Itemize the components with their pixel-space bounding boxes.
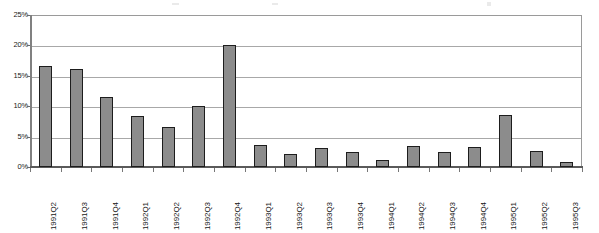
x-axis-tickmark bbox=[367, 168, 368, 172]
y-axis-tick-label: 15% bbox=[2, 72, 28, 80]
x-axis-tickmark bbox=[214, 168, 215, 172]
bar bbox=[376, 160, 389, 167]
x-axis-tickmark bbox=[429, 168, 430, 172]
x-axis-tick-label: 1992Q1 bbox=[141, 174, 151, 230]
x-axis-tickmark bbox=[398, 168, 399, 172]
y-axis-tick-label: 5% bbox=[2, 133, 28, 141]
bar bbox=[438, 152, 451, 167]
x-axis-tickmarks bbox=[30, 168, 582, 173]
x-axis-tick-label: 1993Q3 bbox=[325, 174, 335, 230]
x-axis-tickmark bbox=[521, 168, 522, 172]
x-axis-tick-label: 1994Q1 bbox=[387, 174, 397, 230]
bar bbox=[131, 116, 144, 167]
bar bbox=[100, 97, 113, 167]
x-axis-tick-label: 1992Q2 bbox=[172, 174, 182, 230]
x-axis-tick-label: 1994Q2 bbox=[417, 174, 427, 230]
bar bbox=[315, 148, 328, 167]
y-axis-labels: 0%5%10%15%20%25% bbox=[0, 0, 28, 233]
x-axis-tickmark bbox=[337, 168, 338, 172]
y-axis-tick-label: 10% bbox=[2, 102, 28, 110]
x-axis-tickmark bbox=[551, 168, 552, 172]
bar-chart: 0%5%10%15%20%25% 1991Q21991Q31991Q41992Q… bbox=[0, 0, 599, 233]
bar bbox=[192, 106, 205, 167]
y-axis-tick-label: 20% bbox=[2, 41, 28, 49]
x-axis-tick-label: 1993Q2 bbox=[295, 174, 305, 230]
bar bbox=[254, 145, 267, 167]
x-axis-tickmark bbox=[183, 168, 184, 172]
x-axis-tickmark bbox=[490, 168, 491, 172]
bar bbox=[284, 154, 297, 167]
scan-artifact bbox=[487, 2, 491, 6]
y-axis-tick-label: 25% bbox=[2, 11, 28, 19]
x-axis-tick-label: 1991Q4 bbox=[111, 174, 121, 230]
x-axis-tick-label: 1995Q3 bbox=[571, 174, 581, 230]
x-axis-tickmark bbox=[245, 168, 246, 172]
bar bbox=[346, 152, 359, 167]
x-axis-tickmark bbox=[582, 168, 583, 172]
x-axis-tickmark bbox=[91, 168, 92, 172]
x-axis-tick-label: 1991Q3 bbox=[80, 174, 90, 230]
bars-group bbox=[30, 15, 582, 167]
x-axis-tickmark bbox=[122, 168, 123, 172]
x-axis-tick-label: 1994Q3 bbox=[448, 174, 458, 230]
bar bbox=[162, 127, 175, 167]
x-axis-tick-label: 1991Q2 bbox=[49, 174, 59, 230]
scan-artifact bbox=[172, 3, 179, 5]
x-axis-tick-label: 1992Q4 bbox=[233, 174, 243, 230]
bar bbox=[70, 69, 83, 167]
x-axis-tick-label: 1992Q3 bbox=[203, 174, 213, 230]
x-axis-tickmark bbox=[61, 168, 62, 172]
x-axis-tickmark bbox=[459, 168, 460, 172]
y-axis-tick-label: 0% bbox=[2, 163, 28, 171]
x-axis-tickmark bbox=[275, 168, 276, 172]
x-axis-tick-label: 1995Q2 bbox=[540, 174, 550, 230]
bar bbox=[530, 151, 543, 167]
bar bbox=[39, 66, 52, 167]
x-axis-tick-label: 1995Q1 bbox=[509, 174, 519, 230]
x-axis-tick-label: 1993Q4 bbox=[356, 174, 366, 230]
bar bbox=[468, 147, 481, 167]
x-axis-tickmark bbox=[30, 168, 31, 172]
bar bbox=[499, 115, 512, 167]
bar bbox=[407, 146, 420, 167]
bar bbox=[223, 45, 236, 167]
x-axis-tick-label: 1994Q4 bbox=[479, 174, 489, 230]
x-axis-tick-label: 1993Q1 bbox=[264, 174, 274, 230]
x-axis-tickmark bbox=[153, 168, 154, 172]
x-axis-tickmark bbox=[306, 168, 307, 172]
bar bbox=[560, 162, 573, 167]
x-axis-labels: 1991Q21991Q31991Q41992Q11992Q21992Q31992… bbox=[30, 174, 582, 233]
scan-artifact bbox=[272, 3, 278, 5]
